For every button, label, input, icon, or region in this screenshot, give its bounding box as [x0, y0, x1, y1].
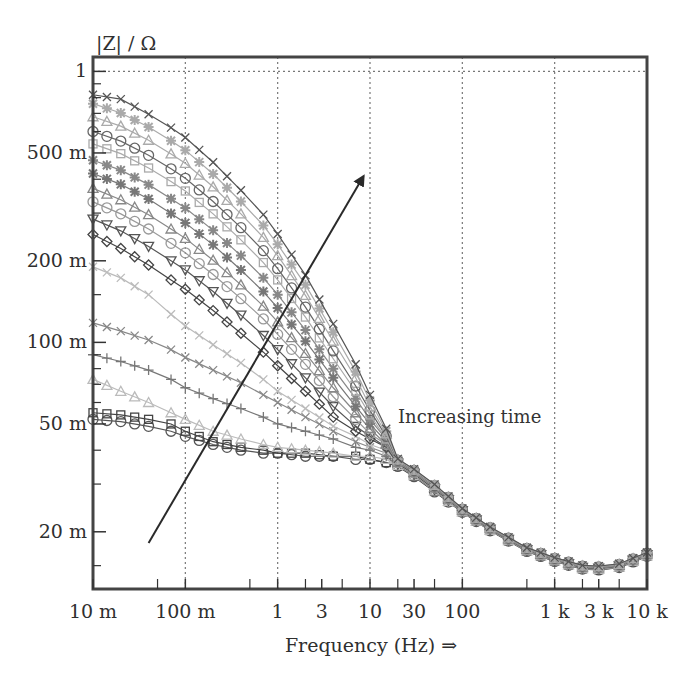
star-marker [194, 229, 204, 239]
star-marker [102, 160, 112, 170]
impedance-chart: |Z| / Ω Increasing time 1500 m200 m100 m… [0, 0, 697, 693]
star-marker [258, 287, 268, 297]
x-marker [209, 341, 217, 349]
star-marker [116, 179, 126, 189]
star-marker [180, 145, 190, 155]
x-tick-label: 3 [316, 600, 328, 622]
x-marker [145, 291, 153, 299]
x-marker [103, 323, 111, 331]
series-line [93, 132, 647, 567]
star-marker [130, 187, 140, 197]
plus-marker [144, 365, 154, 375]
star-marker [130, 115, 140, 125]
star-marker [208, 240, 218, 250]
star-marker [328, 327, 338, 337]
x-marker [181, 353, 189, 361]
x-marker [103, 268, 111, 276]
plus-marker [130, 361, 140, 371]
star-marker [258, 273, 268, 283]
plus-marker [300, 426, 310, 436]
star-marker [144, 194, 154, 204]
x-tick-label: 100 [444, 600, 480, 622]
plus-marker [273, 419, 283, 429]
star-marker [314, 355, 324, 365]
star-marker [365, 396, 375, 406]
x-axis-title: Frequency (Hz) ⇒ [285, 634, 457, 656]
x-marker [274, 398, 282, 406]
y-tick-label: 50 m [39, 412, 87, 434]
x-marker [329, 422, 337, 430]
plus-marker [194, 388, 204, 398]
x-tick-label: 1 k [540, 600, 570, 622]
x-marker [288, 406, 296, 414]
y-tick-label: 500 m [27, 141, 87, 163]
x-marker [195, 146, 203, 154]
x-marker [167, 346, 175, 354]
x-marker [117, 274, 125, 282]
star-marker [116, 165, 126, 175]
x-marker [223, 372, 231, 380]
x-marker [167, 310, 175, 318]
star-marker [194, 157, 204, 167]
gridlines [93, 57, 647, 589]
star-marker [314, 344, 324, 354]
x-marker [167, 124, 175, 132]
star-marker [166, 136, 176, 146]
plus-marker [102, 353, 112, 363]
x-marker [288, 251, 296, 259]
star-marker [258, 220, 268, 230]
x-marker [131, 282, 139, 290]
x-marker [131, 332, 139, 340]
plus-marker [208, 394, 218, 404]
star-marker [194, 214, 204, 224]
x-marker [195, 360, 203, 368]
star-marker [273, 303, 283, 313]
x-tick-label: 10 m [69, 600, 117, 622]
plus-marker [180, 383, 190, 393]
star-marker [102, 103, 112, 113]
star-marker [328, 364, 338, 374]
star-marker [222, 252, 232, 262]
star-marker [130, 172, 140, 182]
star-marker [300, 336, 310, 346]
star-marker [144, 180, 154, 190]
x-tick-label: 100 m [155, 600, 215, 622]
star-marker [166, 194, 176, 204]
x-marker [117, 327, 125, 335]
x-marker [259, 375, 267, 383]
x-tick-label: 3 k [584, 600, 614, 622]
x-marker [145, 336, 153, 344]
x-marker [315, 296, 323, 304]
plus-marker [116, 357, 126, 367]
star-marker [236, 251, 246, 261]
star-marker [273, 290, 283, 300]
star-marker [236, 265, 246, 275]
plus-marker [351, 442, 361, 452]
plus-marker [314, 430, 324, 440]
x-marker [223, 350, 231, 358]
star-marker [222, 183, 232, 193]
increasing-time-label: Increasing time [398, 406, 541, 427]
star-marker [287, 320, 297, 330]
plus-marker [258, 412, 268, 422]
plus-marker [287, 423, 297, 433]
x-marker [145, 110, 153, 118]
x-axis-labels: 10 m100 m1310301001 k3 k10 k [69, 600, 668, 622]
x-marker [237, 359, 245, 367]
x-tick-label: 30 [402, 600, 426, 622]
y-tick-label: 200 m [27, 249, 87, 271]
star-marker [166, 208, 176, 218]
series-t13 [89, 140, 651, 571]
x-marker [131, 103, 139, 111]
x-marker [237, 186, 245, 194]
star-marker [180, 203, 190, 213]
series-t11 [88, 168, 652, 572]
x-marker [301, 405, 309, 413]
star-marker [287, 307, 297, 317]
increasing-time-arrow-icon [149, 176, 364, 543]
y-axis-title: |Z| / Ω [96, 32, 156, 55]
star-marker [300, 325, 310, 335]
star-marker [180, 218, 190, 228]
star-marker [144, 122, 154, 132]
star-marker [236, 197, 246, 207]
